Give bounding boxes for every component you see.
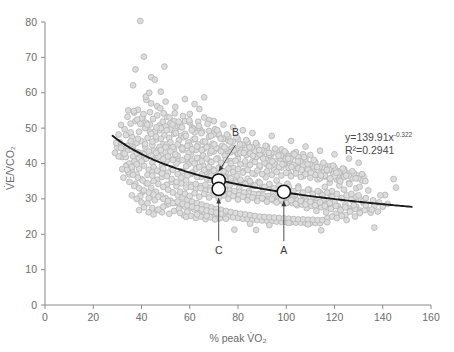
scatter-point [241, 150, 247, 156]
scatter-point [289, 164, 295, 170]
scatter-point [134, 117, 140, 123]
scatter-point [314, 164, 320, 170]
scatter-point [301, 154, 307, 160]
scatter-point [149, 173, 155, 179]
scatter-point [269, 133, 275, 139]
scatter-point [130, 82, 136, 88]
scatter-point [266, 222, 272, 228]
scatter-point [175, 142, 181, 148]
scatter-point [330, 163, 336, 169]
scatter-point [169, 122, 175, 128]
scatter-point [375, 209, 381, 215]
r-squared-label: R²=0.2941 [345, 144, 394, 156]
scatter-point [121, 175, 127, 181]
x-axis-title: % peak V̇O₂ [209, 332, 266, 344]
x-tick-label: 60 [184, 311, 196, 323]
scatter-point [137, 18, 143, 24]
scatter-point [124, 167, 130, 173]
scatter-point [295, 158, 301, 164]
scatter-point [203, 182, 209, 188]
scatter-point [141, 54, 147, 60]
scatter-point [247, 144, 253, 150]
scatter-point [237, 142, 243, 148]
scatter-point [214, 127, 220, 133]
x-tick-label: 20 [87, 311, 99, 323]
scatter-point [247, 178, 253, 184]
scatter-point [122, 126, 128, 132]
scatter-point [295, 185, 301, 191]
scatter-point [142, 141, 148, 147]
chart-canvas: 020406080100120140160 01020304050607080 … [0, 0, 454, 352]
scatter-point [145, 180, 151, 186]
scatter-point [318, 227, 324, 233]
scatter-point [183, 178, 189, 184]
scatter-point [122, 151, 128, 157]
scatter-point [263, 143, 269, 149]
scatter-point [305, 187, 311, 193]
y-axis-ticks: 01020304050607080 [25, 16, 45, 311]
scatter-point [311, 157, 317, 163]
scatter-point [158, 89, 164, 95]
y-tick-label: 10 [25, 263, 37, 275]
scatter-point [128, 129, 134, 135]
scatter-point [324, 219, 330, 225]
scatter-point [176, 119, 182, 125]
scatter-point [127, 179, 133, 185]
scatter-point [347, 181, 353, 187]
x-tick-label: 80 [232, 311, 244, 323]
scatter-point [349, 168, 355, 174]
scatter-point [393, 185, 399, 191]
scatter-point [173, 130, 179, 136]
scatter-point [180, 113, 186, 119]
y-axis-title: V̇E/V̇CO₂ [4, 146, 16, 190]
x-tick-label: 140 [374, 311, 392, 323]
scatter-point [315, 188, 321, 194]
scatter-point [317, 148, 323, 154]
scatter-point [351, 202, 357, 208]
scatter-point [174, 179, 180, 185]
annotation-label-a: A [280, 244, 287, 256]
scatter-point [131, 108, 137, 114]
scatter-point [152, 77, 158, 83]
scatter-point [238, 177, 244, 183]
scatter-point [318, 173, 324, 179]
x-tick-label: 0 [42, 311, 48, 323]
highlight-marker-a [277, 185, 290, 198]
scatter-point [163, 99, 169, 105]
scatter-point [299, 167, 305, 173]
annotation-label-c: C [215, 244, 223, 256]
scatter-point [340, 166, 346, 172]
scatter-point [272, 146, 278, 152]
x-tick-label: 40 [136, 311, 148, 323]
scatter-point [179, 125, 185, 131]
scatter-point [144, 122, 150, 128]
scatter-point [192, 101, 198, 107]
scatter-point [371, 225, 377, 231]
y-tick-label: 0 [31, 299, 37, 311]
x-tick-label: 160 [422, 311, 440, 323]
y-tick-label: 40 [25, 157, 37, 169]
y-tick-label: 20 [25, 228, 37, 240]
scatter-point [282, 149, 288, 155]
scatter-point [161, 110, 167, 116]
y-tick-label: 30 [25, 192, 37, 204]
scatter-point [269, 158, 275, 164]
scatter-point [205, 121, 211, 127]
scatter-point [187, 111, 193, 117]
scatter-point [279, 161, 285, 167]
scatter-point [162, 64, 168, 70]
scatter-point [348, 191, 354, 197]
scatter-point [333, 203, 339, 209]
scatter-point [253, 140, 259, 146]
scatter-point [222, 144, 228, 150]
scatter-point [391, 176, 397, 182]
scatter-point [362, 178, 368, 184]
scatter-point [118, 145, 124, 151]
scatter-point [201, 94, 207, 100]
scatter-point [285, 156, 291, 162]
scatter-point [292, 151, 298, 157]
scatter-point [247, 221, 253, 227]
scatter-point [253, 227, 259, 233]
scatter-point [163, 144, 169, 150]
scatter-point [211, 142, 217, 148]
